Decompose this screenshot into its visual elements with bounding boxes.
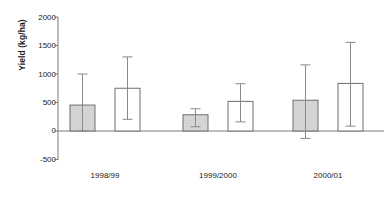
y-axis-tick-marks bbox=[54, 17, 58, 160]
axes bbox=[54, 17, 384, 160]
chart-container: Yield (kg/ha) 2000 1500 1000 500 0 -500 … bbox=[0, 0, 390, 215]
plot-area bbox=[0, 0, 390, 215]
bars-layer bbox=[70, 83, 363, 131]
